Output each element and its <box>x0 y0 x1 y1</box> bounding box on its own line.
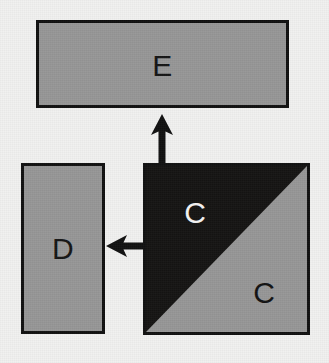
node-c-upper-label: C <box>146 198 244 228</box>
arrow-c-to-e <box>146 112 178 166</box>
node-e[interactable]: E <box>36 20 289 108</box>
node-c-split-square[interactable]: C C <box>143 163 310 335</box>
arrow-left-icon <box>106 235 146 257</box>
node-d-label: D <box>24 234 102 264</box>
node-c-lower-label: C <box>215 278 313 308</box>
node-d[interactable]: D <box>21 163 105 334</box>
arrow-c-to-d <box>104 230 146 262</box>
arrow-up-icon <box>151 114 173 166</box>
diagram-canvas: E D C C <box>0 0 329 363</box>
node-e-label: E <box>39 51 286 81</box>
